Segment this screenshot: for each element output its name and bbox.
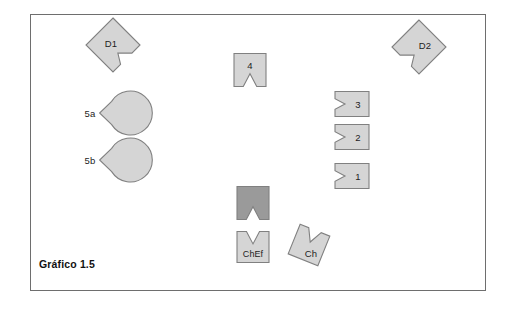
figure-frame-border	[30, 14, 486, 291]
figure-caption: Gráfico 1.5	[39, 258, 95, 270]
figure-root: D1D25a5b4321ChEfCh Gráfico 1.5	[0, 0, 511, 313]
